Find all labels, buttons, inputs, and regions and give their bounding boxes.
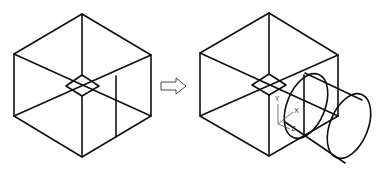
right-box <box>200 13 338 156</box>
cylinder <box>276 67 380 164</box>
ucs-z-label: Z <box>291 125 296 133</box>
ucs-y-label: Y <box>274 95 280 103</box>
ucs-x-label: X <box>294 107 299 115</box>
left-box <box>14 14 151 157</box>
diagram-canvas: Y X Z <box>0 0 380 174</box>
diagram-svg: Y X Z <box>0 0 380 174</box>
ucs-axes-icon: Y X Z <box>274 95 299 133</box>
right-arrow-icon <box>161 78 186 94</box>
